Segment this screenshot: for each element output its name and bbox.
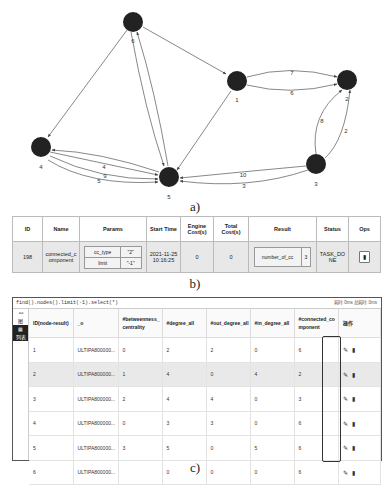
query-bar[interactable]: find().nodes().limit(-1).select(*) 耗时: 0…	[13, 298, 381, 309]
caption-c: c)	[175, 460, 215, 476]
cell-component: 3	[294, 387, 338, 412]
graph-icon: ⚯	[13, 309, 28, 317]
cell-id: 6	[29, 460, 73, 485]
col-in-degree[interactable]: #in_degree_all	[250, 309, 294, 338]
cell-betweenness: 3	[118, 436, 162, 461]
task-start-time: 2021-11-25 10:16:25	[147, 242, 181, 273]
edit-icon[interactable]: ✎	[343, 372, 348, 378]
table-row: 1 ULTIPA800000... 0 2 2 0 6 ✎▮	[29, 338, 380, 363]
node-label: 1	[235, 97, 239, 103]
caption-b: b)	[175, 276, 215, 292]
edge-label: 4	[102, 164, 106, 170]
node-1[interactable]	[227, 71, 247, 91]
cell-o: ULTIPA800000...	[73, 362, 118, 387]
task-status: TASK_DONE	[317, 242, 349, 273]
cell-out-degree: 2	[206, 338, 250, 363]
col-connected-component[interactable]: #connected_component	[294, 309, 338, 338]
task-table: ID Name Params Start Time Engine Cost(s)…	[12, 216, 381, 273]
edge-label: 10	[240, 172, 247, 178]
col-status: Status	[317, 217, 349, 242]
cell-id: 4	[29, 411, 73, 436]
cell-betweenness: 2	[118, 387, 162, 412]
node-label: 4	[39, 164, 43, 170]
cell-in-degree: 5	[250, 436, 294, 461]
col-betweenness[interactable]: #betweenness_centrality	[118, 309, 162, 338]
edit-icon[interactable]: ✎	[343, 396, 348, 402]
delete-icon[interactable]: ▮	[352, 396, 355, 402]
row-actions: ✎▮	[338, 460, 380, 485]
edit-icon[interactable]: ✎	[343, 470, 348, 476]
col-ops: Ops	[349, 217, 381, 242]
query-panel: find().nodes().limit(-1).select(*) 耗时: 0…	[12, 297, 382, 461]
graph-view-button[interactable]: ⚯ 图	[13, 309, 28, 325]
node-6[interactable]	[123, 12, 143, 32]
result-table: ID(node-result) _o #betweenness_centrali…	[29, 309, 381, 485]
edge-label: 3	[242, 183, 246, 189]
row-actions: ✎▮	[338, 436, 380, 461]
task-result: number_of_cc3	[249, 242, 317, 273]
task-total-cost: 0	[214, 242, 249, 273]
cell-in-degree: 0	[250, 338, 294, 363]
cell-degree: 5	[162, 436, 206, 461]
task-table-header: ID Name Params Start Time Engine Cost(s)…	[13, 217, 381, 242]
edge-3-2a	[315, 90, 342, 154]
cell-betweenness: 1	[118, 362, 162, 387]
table-view-label: 列表	[13, 333, 28, 341]
graph-view-label: 图	[13, 317, 28, 325]
cell-degree: 2	[162, 338, 206, 363]
node-5[interactable]	[159, 167, 179, 187]
delete-icon[interactable]: ▮	[359, 251, 370, 263]
col-o[interactable]: _o	[73, 309, 118, 338]
delete-icon[interactable]: ▮	[352, 470, 355, 476]
param-key: cc_type	[85, 246, 120, 257]
delete-icon[interactable]: ▮	[352, 421, 355, 427]
cell-o: ULTIPA800000...	[73, 338, 118, 363]
col-id: ID	[13, 217, 43, 242]
cell-degree: 3	[162, 411, 206, 436]
col-degree-all[interactable]: #degree_all	[162, 309, 206, 338]
delete-icon[interactable]: ▮	[352, 347, 355, 353]
row-actions: ✎▮	[338, 338, 380, 363]
edit-icon[interactable]: ✎	[343, 347, 348, 353]
params-table: cc_type"2" limit"-1"	[84, 246, 141, 269]
cell-o: ULTIPA800000...	[73, 411, 118, 436]
node-2[interactable]	[337, 70, 357, 90]
task-id: 198	[13, 242, 43, 273]
delete-icon[interactable]: ▮	[352, 445, 355, 451]
table-icon: ▦	[13, 325, 28, 333]
table-row: 2 ULTIPA800000... 1 4 0 4 2 ✎▮	[29, 362, 380, 387]
edge-6-5	[131, 32, 164, 166]
cell-component: 6	[294, 338, 338, 363]
col-node-id[interactable]: ID(node-result)	[29, 309, 73, 338]
param-value: "2"	[120, 246, 141, 257]
edge-6-4	[48, 30, 127, 137]
view-switcher: ⚯ 图 ▦ 列表	[13, 309, 29, 460]
directed-graph: 7 6 8 2 10 3 4 9 5 6 1 2 4 5 3	[0, 0, 391, 200]
node-label: 3	[314, 181, 318, 187]
cell-id: 5	[29, 436, 73, 461]
col-actions: 操作	[338, 309, 380, 338]
cell-out-degree: 0	[206, 436, 250, 461]
edge-label: 6	[290, 90, 294, 96]
edge-label: 7	[290, 70, 294, 76]
edit-icon[interactable]: ✎	[343, 445, 348, 451]
node-3[interactable]	[306, 154, 326, 174]
delete-icon[interactable]: ▮	[352, 372, 355, 378]
edit-icon[interactable]: ✎	[343, 421, 348, 427]
edge-label: 5	[97, 178, 101, 184]
query-text[interactable]: find().nodes().limit(-1).select(*)	[16, 300, 118, 306]
cell-out-degree: 4	[206, 387, 250, 412]
node-4[interactable]	[31, 137, 51, 157]
table-row: 198 connected_component cc_type"2" limit…	[13, 242, 381, 273]
cell-o: ULTIPA800000...	[73, 460, 118, 485]
cell-betweenness	[118, 460, 162, 485]
task-params: cc_type"2" limit"-1"	[80, 242, 147, 273]
result-key: number_of_cc	[254, 248, 301, 267]
table-row: 3 ULTIPA800000... 2 4 4 0 3 ✎▮	[29, 387, 380, 412]
col-out-degree[interactable]: #out_degree_all	[206, 309, 250, 338]
edge-label: 9	[103, 173, 107, 179]
table-view-button[interactable]: ▦ 列表	[13, 325, 28, 341]
cell-component: 2	[294, 362, 338, 387]
table-row: 4 ULTIPA800000... 0 3 3 0 6 ✎▮	[29, 411, 380, 436]
cell-betweenness: 0	[118, 338, 162, 363]
